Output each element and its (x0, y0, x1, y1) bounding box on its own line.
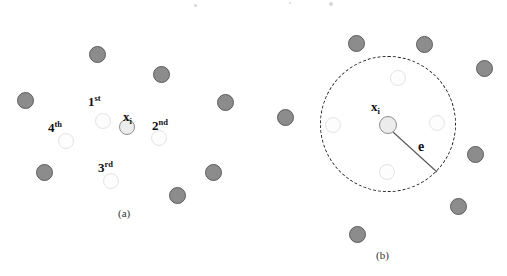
epsilon-neighbor-point (429, 115, 445, 131)
label-2nd-sup: nd (159, 117, 168, 127)
label-xi-a-main: x (123, 109, 130, 124)
outer-point (467, 146, 484, 163)
epsilon-neighbor-point (325, 117, 341, 133)
label-1st: 1st (88, 95, 101, 108)
caption-panel-b: (b) (376, 250, 389, 261)
outer-point (277, 109, 294, 126)
outer-point (450, 198, 467, 215)
label-3rd-sup: rd (105, 159, 114, 169)
label-xi-b-sub: i (378, 106, 380, 116)
outer-point (89, 46, 106, 63)
outer-point (349, 226, 366, 243)
neighbor-point-1st (95, 113, 111, 129)
outer-point (217, 94, 234, 111)
label-1st-sup: st (95, 93, 101, 103)
outer-point (476, 60, 493, 77)
outer-point (416, 36, 433, 53)
outer-point (17, 92, 34, 109)
outer-point (36, 164, 53, 181)
label-xi-panel-b: xi (371, 100, 380, 113)
outer-point (348, 35, 365, 52)
epsilon-neighbor-point (379, 164, 395, 180)
neighbor-point-3rd (103, 173, 119, 189)
outer-point (169, 187, 186, 204)
label-2nd: 2nd (152, 119, 168, 132)
label-xi-panel-a: xi (123, 110, 132, 123)
label-xi-b-main: x (371, 99, 378, 114)
panel-a-knn-neighborhood: 1st 2nd 3rd 4th xi (a) (0, 0, 254, 276)
neighbor-point-4th (58, 133, 74, 149)
center-point-xi (379, 116, 397, 134)
figure-root: 1st 2nd 3rd 4th xi (a) xi e (0, 0, 507, 276)
label-epsilon-radius: e (418, 140, 424, 154)
epsilon-neighbor-point (390, 70, 406, 86)
label-4th-sup: th (55, 119, 63, 129)
outer-point (153, 66, 170, 83)
caption-panel-a: (a) (118, 208, 130, 219)
label-3rd: 3rd (98, 161, 113, 174)
label-4th: 4th (48, 121, 62, 134)
label-xi-a-sub: i (130, 116, 132, 126)
outer-point (205, 164, 222, 181)
